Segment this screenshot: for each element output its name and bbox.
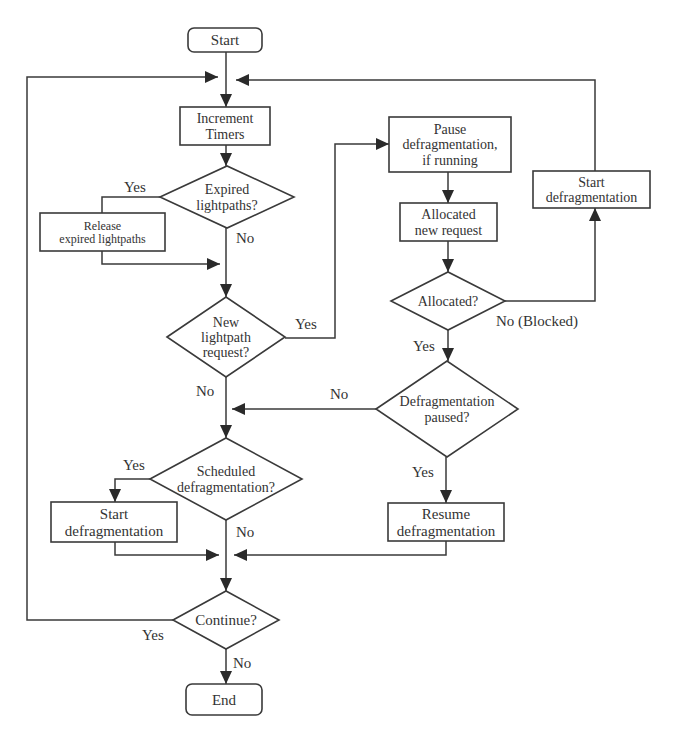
connector-line bbox=[505, 208, 595, 301]
arrowhead-icon bbox=[376, 138, 389, 150]
edge-expired_lightpaths-to-release_expired bbox=[102, 197, 160, 213]
edge-resume_defrag-to-merge3 bbox=[234, 541, 446, 561]
edge-defrag_paused_q-to-resume_defrag bbox=[440, 457, 452, 503]
node-label: if running bbox=[422, 153, 478, 168]
connector-line bbox=[102, 197, 160, 213]
node-start: Start bbox=[188, 28, 262, 52]
arrowhead-icon bbox=[207, 258, 220, 270]
node-label: Scheduled bbox=[197, 464, 255, 479]
connector-line bbox=[234, 541, 446, 555]
node-label: Start bbox=[211, 32, 240, 48]
node-label: Pause bbox=[434, 122, 467, 137]
edge-new_lightpath_request-to-pause_defrag bbox=[285, 138, 389, 338]
node-resume-defrag: Resumedefragmentation bbox=[388, 503, 504, 541]
node-label: Release bbox=[84, 219, 121, 233]
arrowhead-icon bbox=[589, 208, 601, 221]
node-label: Resume bbox=[422, 506, 471, 522]
edge-scheduled_defrag_q-to-continue_q bbox=[220, 520, 232, 591]
arrowhead-icon bbox=[220, 94, 232, 107]
arrowhead-icon bbox=[234, 549, 247, 561]
node-allocated-new-request: Allocatednew request bbox=[400, 203, 497, 241]
node-label: request? bbox=[203, 345, 250, 360]
edge-pause_defrag-to-allocated_new_request bbox=[442, 172, 454, 203]
node-defrag-paused-q: Defragmentationpaused? bbox=[376, 361, 518, 457]
node-label: Continue? bbox=[195, 612, 257, 628]
connector-line bbox=[102, 251, 220, 264]
node-start-defrag-left: Startdefragmentation bbox=[51, 502, 177, 542]
edge-label: No bbox=[236, 230, 254, 246]
arrowhead-icon bbox=[109, 489, 121, 502]
node-allocated-q: Allocated? bbox=[391, 272, 505, 330]
arrowhead-icon bbox=[442, 348, 454, 361]
arrowhead-icon bbox=[232, 403, 245, 415]
edge-start_defrag_left-to-merge3 bbox=[115, 542, 219, 561]
node-label: defragmentation? bbox=[177, 480, 275, 495]
arrowhead-icon bbox=[220, 578, 232, 591]
arrowhead-icon bbox=[220, 153, 232, 166]
edge-label: Yes bbox=[123, 457, 145, 473]
edge-defrag_paused_q-to-merge2 bbox=[232, 403, 376, 415]
edge-new_lightpath_request-to-scheduled_defrag_q bbox=[220, 377, 232, 438]
arrowhead-icon bbox=[220, 284, 232, 297]
node-label: defragmentation bbox=[546, 190, 638, 205]
node-label: lightpath bbox=[201, 330, 251, 345]
arrowhead-icon bbox=[220, 671, 232, 684]
edge-label: No bbox=[196, 383, 214, 399]
arrowhead-icon bbox=[236, 74, 249, 86]
node-label: Start bbox=[578, 175, 605, 190]
node-label: defragmentation, bbox=[402, 137, 497, 152]
node-release-expired: Releaseexpired lightpaths bbox=[40, 213, 165, 251]
connector-line bbox=[285, 144, 389, 338]
edge-label: No bbox=[233, 655, 251, 671]
node-label: Increment bbox=[197, 111, 254, 126]
edge-start-to-increment_timers bbox=[220, 52, 232, 107]
node-end: End bbox=[186, 684, 262, 715]
edge-label: Yes bbox=[412, 464, 434, 480]
edge-release_expired-to-merge1 bbox=[102, 251, 220, 270]
node-pause-defrag: Pausedefragmentation,if running bbox=[389, 117, 511, 172]
node-label: Defragmentation bbox=[400, 394, 495, 409]
node-label: defragmentation bbox=[397, 523, 496, 539]
arrowhead-icon bbox=[442, 190, 454, 203]
flowchart-edge-labels: YesNoYesNo (Blocked)YesNoNoYesYesNoYesNo bbox=[123, 179, 578, 671]
edge-allocated_q-to-defrag_paused_q bbox=[442, 330, 454, 361]
edge-label: No (Blocked) bbox=[496, 313, 578, 330]
node-new-lightpath-request: Newlightpathrequest? bbox=[167, 297, 285, 377]
flowchart-canvas: StartIncrementTimersExpiredlightpaths?Re… bbox=[0, 0, 682, 743]
node-label: lightpaths? bbox=[196, 198, 257, 213]
edge-increment_timers-to-expired_lightpaths bbox=[220, 145, 232, 166]
node-label: End bbox=[212, 692, 237, 708]
edge-continue_q-to-end bbox=[220, 649, 232, 684]
node-label: defragmentation bbox=[65, 523, 164, 539]
edge-expired_lightpaths-to-new_lightpath_request bbox=[220, 228, 232, 297]
node-label: new request bbox=[415, 223, 482, 238]
edge-allocated_new_request-to-allocated_q bbox=[442, 241, 454, 272]
edge-allocated_q-to-start_defrag_right bbox=[505, 208, 601, 301]
node-label: Expired bbox=[205, 182, 249, 197]
node-increment-timers: IncrementTimers bbox=[180, 107, 270, 145]
flowchart-edges bbox=[27, 52, 601, 684]
node-label: New bbox=[213, 315, 240, 330]
node-label: Allocated? bbox=[418, 294, 479, 309]
edge-label: Yes bbox=[295, 316, 317, 332]
node-label: expired lightpaths bbox=[59, 232, 146, 246]
edge-label: No bbox=[330, 386, 348, 402]
flowchart-nodes: StartIncrementTimersExpiredlightpaths?Re… bbox=[40, 28, 650, 715]
node-expired-lightpaths: Expiredlightpaths? bbox=[160, 166, 294, 228]
node-start-defrag-right: Startdefragmentation bbox=[533, 171, 650, 208]
node-label: Allocated bbox=[421, 207, 475, 222]
edge-label: No bbox=[236, 524, 254, 540]
edge-scheduled_defrag_q-to-start_defrag_left bbox=[109, 479, 150, 502]
arrowhead-icon bbox=[442, 259, 454, 272]
edge-label: Yes bbox=[413, 338, 435, 354]
arrowhead-icon bbox=[205, 71, 218, 83]
node-continue-q: Continue? bbox=[173, 591, 279, 649]
arrowhead-icon bbox=[206, 549, 219, 561]
arrowhead-icon bbox=[440, 490, 452, 503]
node-label: Timers bbox=[205, 127, 244, 142]
arrowhead-icon bbox=[220, 425, 232, 438]
node-label: Start bbox=[100, 506, 129, 522]
connector-line bbox=[115, 542, 219, 555]
node-label: paused? bbox=[424, 410, 469, 425]
edge-label: Yes bbox=[124, 179, 146, 195]
